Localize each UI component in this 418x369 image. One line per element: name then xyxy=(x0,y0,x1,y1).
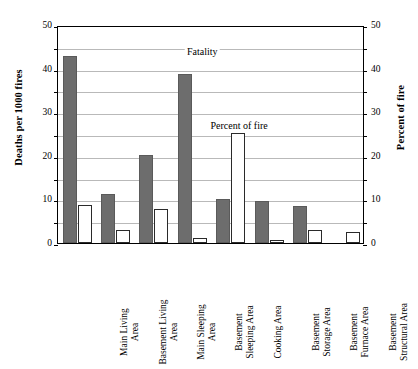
bar-group xyxy=(135,27,173,243)
y-axis-right-tick-label: 0 xyxy=(371,239,393,249)
axis-tick-mark xyxy=(54,92,57,93)
x-axis-label: Basement Sleeping Area xyxy=(234,289,255,369)
x-axis-label: Basement Living Area xyxy=(158,289,179,369)
y-axis-right-tick-label: 20 xyxy=(371,152,393,162)
bar-fatality xyxy=(63,56,77,243)
bar-fatality xyxy=(216,199,230,243)
x-axis-label: Cooking Area xyxy=(273,289,284,369)
y-axis-left-tick-label: 40 xyxy=(30,65,52,75)
axis-tick-mark xyxy=(54,223,57,224)
y-axis-left-tick-label: 50 xyxy=(30,21,52,31)
bar-fatality xyxy=(139,155,153,244)
bar-percent-of-fire xyxy=(270,240,284,243)
y-axis-left-tick-label: 10 xyxy=(30,195,52,205)
y-axis-left-title: Deaths per 1000 fires xyxy=(13,48,24,188)
bar-group xyxy=(173,27,211,243)
bar-percent-of-fire xyxy=(78,205,92,243)
y-axis-left-tick-label: 20 xyxy=(30,152,52,162)
bar-fatality xyxy=(293,206,307,243)
axis-tick-mark xyxy=(54,136,57,137)
bar-group xyxy=(96,27,134,243)
x-axis-label: Main Sleeping Area xyxy=(196,289,217,369)
bar-percent-of-fire xyxy=(231,133,245,243)
y-axis-right-title: Percent of fire xyxy=(395,48,406,188)
axis-tick-mark xyxy=(54,49,57,50)
x-axis-category-labels: Main Living AreaBasement Living AreaMain… xyxy=(57,246,364,334)
bar-group xyxy=(250,27,288,243)
x-axis-label: Basement Furnace Area xyxy=(349,289,370,369)
annotation-label: Percent of fire xyxy=(209,120,270,131)
bar-fatality xyxy=(178,74,192,243)
bar-percent-of-fire xyxy=(154,209,168,243)
bar-percent-of-fire xyxy=(346,232,360,243)
bar-percent-of-fire xyxy=(193,238,207,243)
plot-area: FatalityPercent of fire xyxy=(57,26,364,244)
bar-group xyxy=(327,27,365,243)
y-axis-right-tick-label: 30 xyxy=(371,108,393,118)
y-axis-right-tick-label: 10 xyxy=(371,195,393,205)
y-axis-right-tick-label: 40 xyxy=(371,65,393,75)
y-axis-left-tick-label: 0 xyxy=(30,239,52,249)
bar-group xyxy=(288,27,326,243)
bar-fatality xyxy=(255,201,269,243)
x-axis-label: Basement Storage Area xyxy=(311,289,332,369)
bar-fatality xyxy=(101,194,115,243)
bar-percent-of-fire xyxy=(116,230,130,243)
x-axis-label: Main Living Area xyxy=(119,289,140,369)
y-axis-right-tick-label: 50 xyxy=(371,21,393,31)
y-axis-left-tick-label: 30 xyxy=(30,108,52,118)
bar-group xyxy=(212,27,250,243)
annotation-label: Fatality xyxy=(185,46,220,57)
bar-percent-of-fire xyxy=(308,230,322,243)
x-axis-label: Basement Structural Area xyxy=(388,289,409,369)
axis-tick-mark xyxy=(54,180,57,181)
bar-group xyxy=(58,27,96,243)
